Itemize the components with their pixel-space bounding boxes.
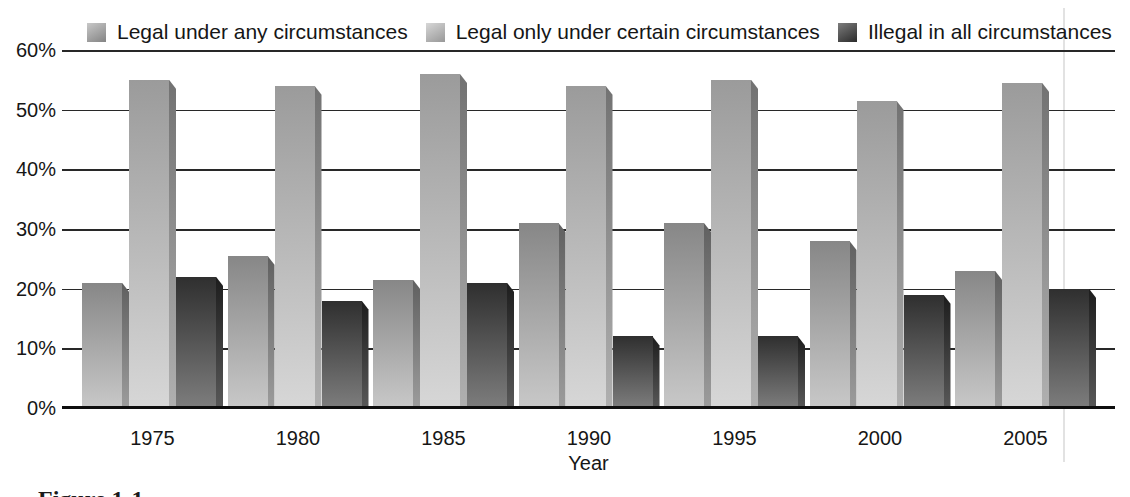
bar-face	[519, 223, 559, 408]
y-tick-label-10%: 10%	[4, 337, 56, 360]
legend-item-legal-certain: Legal only under certain circumstances	[426, 20, 820, 44]
bar-face	[275, 86, 315, 408]
legend-swatch-legal-certain	[426, 23, 445, 42]
bar-side	[559, 223, 566, 408]
bar-1975-series3	[176, 277, 223, 408]
bar-side	[413, 280, 420, 408]
bar-side	[798, 336, 805, 408]
x-tick-label-1990: 1990	[549, 427, 629, 450]
bar-1995-series1	[664, 223, 711, 408]
bar-side	[995, 271, 1002, 408]
bar-1990-series1	[519, 223, 566, 408]
figure-caption: Figure 1-1	[38, 486, 338, 497]
x-tick-label-2000: 2000	[840, 427, 920, 450]
bar-face	[467, 283, 507, 408]
bars-layer	[62, 50, 1115, 408]
bar-side	[1042, 83, 1049, 408]
x-tick-label-1985: 1985	[404, 427, 484, 450]
bar-face	[1002, 83, 1042, 408]
bar-side	[268, 256, 275, 408]
bar-face	[758, 336, 798, 408]
bar-1985-series3	[467, 283, 514, 408]
bar-face	[711, 80, 751, 408]
x-tick-label-1980: 1980	[258, 427, 338, 450]
bar-side	[653, 336, 660, 408]
legend-label-legal-any: Legal under any circumstances	[117, 20, 408, 44]
legend-label-illegal-all: Illegal in all circumstances	[868, 20, 1112, 44]
bar-1980-series1	[228, 256, 275, 408]
bar-face	[904, 295, 944, 408]
bar-face	[613, 336, 653, 408]
bar-side	[460, 74, 467, 408]
chart-legend: Legal under any circumstances Legal only…	[87, 20, 1112, 44]
x-tick-label-1995: 1995	[695, 427, 775, 450]
bar-side	[315, 86, 322, 408]
bar-face	[176, 277, 216, 408]
bar-1995-series2	[711, 80, 758, 408]
plot-area	[62, 50, 1115, 408]
legend-item-legal-any: Legal under any circumstances	[87, 20, 408, 44]
bar-1975-series2	[129, 80, 176, 408]
bar-face	[322, 301, 362, 408]
bar-side	[944, 295, 951, 408]
bar-face	[810, 241, 850, 408]
bar-face	[129, 80, 169, 408]
bar-side	[169, 80, 176, 408]
bar-1990-series3	[613, 336, 660, 408]
bar-1980-series3	[322, 301, 369, 408]
bar-side	[362, 301, 369, 408]
x-axis-title: Year	[62, 452, 1115, 475]
bar-face	[664, 223, 704, 408]
bar-2000-series1	[810, 241, 857, 408]
y-tick-label-0%: 0%	[4, 397, 56, 420]
bar-2005-series1	[955, 271, 1002, 408]
bar-face	[373, 280, 413, 408]
bar-face	[228, 256, 268, 408]
chart-page: Legal under any circumstances Legal only…	[0, 0, 1130, 497]
y-tick-label-20%: 20%	[4, 278, 56, 301]
legend-label-legal-certain: Legal only under certain circumstances	[456, 20, 820, 44]
bar-1985-series1	[373, 280, 420, 408]
bar-side	[122, 283, 129, 408]
bar-side	[507, 283, 514, 408]
bar-side	[751, 80, 758, 408]
bar-side	[897, 101, 904, 408]
bar-face	[566, 86, 606, 408]
bar-2005-series2	[1002, 83, 1049, 408]
legend-swatch-legal-any	[87, 23, 106, 42]
bar-side	[216, 277, 223, 408]
bar-2000-series3	[904, 295, 951, 408]
bar-1990-series2	[566, 86, 613, 408]
bar-1980-series2	[275, 86, 322, 408]
legend-swatch-illegal-all	[838, 23, 857, 42]
bar-1975-series1	[82, 283, 129, 408]
bar-face	[1049, 289, 1089, 408]
bar-face	[420, 74, 460, 408]
y-tick-label-60%: 60%	[4, 39, 56, 62]
x-axis-line	[62, 406, 1115, 409]
y-tick-label-30%: 30%	[4, 218, 56, 241]
bar-2000-series2	[857, 101, 904, 408]
bar-face	[82, 283, 122, 408]
x-tick-label-2005: 2005	[986, 427, 1066, 450]
bar-side	[1089, 289, 1096, 408]
legend-item-illegal-all: Illegal in all circumstances	[838, 20, 1112, 44]
y-tick-label-50%: 50%	[4, 99, 56, 122]
bar-1985-series2	[420, 74, 467, 408]
bar-1995-series3	[758, 336, 805, 408]
y-tick-label-40%: 40%	[4, 158, 56, 181]
bar-side	[606, 86, 613, 408]
bar-2005-series3	[1049, 289, 1096, 408]
bar-side	[704, 223, 711, 408]
bar-side	[850, 241, 857, 408]
bar-face	[857, 101, 897, 408]
bar-face	[955, 271, 995, 408]
x-tick-label-1975: 1975	[113, 427, 193, 450]
